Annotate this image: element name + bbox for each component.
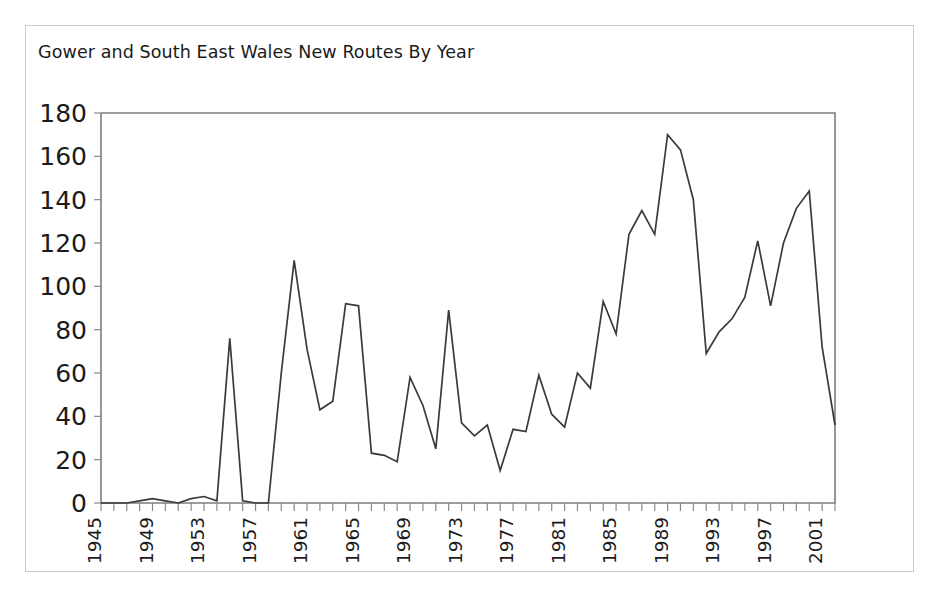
y-axis-tick-label: 180: [39, 99, 87, 128]
y-axis-tick-marks: [94, 113, 101, 503]
x-axis-tick-label: 2001: [805, 517, 826, 564]
x-axis-tick-label: 1981: [548, 517, 569, 564]
x-axis-tick-label: 1973: [445, 517, 466, 564]
x-axis-tick-label: 1957: [239, 517, 260, 564]
x-axis-tick-marks: [101, 503, 835, 511]
y-axis-tick-label: 60: [55, 359, 87, 388]
x-axis-tick-label: 1977: [496, 517, 517, 564]
y-axis-tick-label: 40: [55, 402, 87, 431]
x-axis-tick-labels: 1945194919531957196119651969197319771981…: [84, 517, 826, 564]
x-axis-tick-label: 1953: [187, 517, 208, 564]
plot-frame: [101, 113, 835, 503]
x-axis-tick-label: 1997: [754, 517, 775, 564]
y-axis-tick-label: 140: [39, 186, 87, 215]
x-axis-tick-label: 1993: [702, 517, 723, 564]
x-axis-tick-label: 1985: [599, 517, 620, 564]
y-axis-tick-labels: 020406080100120140160180: [39, 99, 87, 518]
chart-card: Gower and South East Wales New Routes By…: [25, 25, 914, 572]
y-axis-tick-label: 160: [39, 142, 87, 171]
y-axis-tick-label: 120: [39, 229, 87, 258]
y-axis-tick-label: 80: [55, 316, 87, 345]
x-axis-tick-label: 1945: [84, 517, 105, 564]
x-axis-tick-label: 1989: [651, 517, 672, 564]
y-axis-tick-label: 100: [39, 272, 87, 301]
x-axis-tick-label: 1965: [342, 517, 363, 564]
data-series-line: [101, 135, 835, 503]
x-axis-tick-label: 1969: [393, 517, 414, 564]
line-chart-plot: 020406080100120140160180 194519491953195…: [26, 26, 915, 573]
y-axis-tick-label: 20: [55, 446, 87, 475]
y-axis-tick-label: 0: [71, 489, 87, 518]
x-axis-tick-label: 1949: [136, 517, 157, 564]
x-axis-tick-label: 1961: [290, 517, 311, 564]
